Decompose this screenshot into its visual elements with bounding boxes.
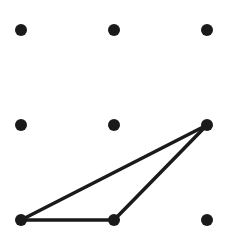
grid-dot [201, 24, 213, 36]
triangle [21, 125, 207, 220]
grid-dot [15, 119, 27, 131]
grid-dot [201, 214, 213, 226]
grid-dot [108, 214, 120, 226]
grid-dot [15, 214, 27, 226]
grid-dot [201, 119, 213, 131]
dot-grid-diagram [0, 0, 225, 238]
dot-grid [15, 24, 213, 226]
grid-dot [108, 119, 120, 131]
triangle-edge [21, 125, 207, 220]
triangle-edge [114, 125, 207, 220]
grid-dot [108, 24, 120, 36]
grid-dot [15, 24, 27, 36]
